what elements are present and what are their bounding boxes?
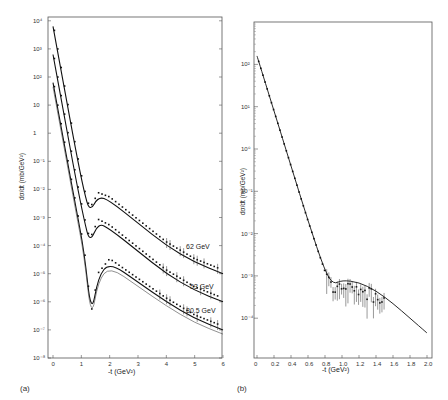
svg-text:1.8: 1.8 [407,361,416,367]
panel-b-axes: 00.20.40.60.81.01.21.41.61.82.010²10¹10⁰… [241,24,433,367]
label-53gev: 53 GeV [190,283,214,290]
panel-b-frame [254,22,432,358]
label-62gev: 62 GeV [186,243,210,250]
svg-text:5: 5 [193,361,197,367]
svg-text:10⁰: 10⁰ [241,146,251,152]
panel-b-curves [257,56,427,333]
svg-text:10⁻²: 10⁻² [241,231,253,237]
svg-text:10: 10 [33,102,40,108]
svg-text:10³: 10³ [33,46,42,52]
panel-a-label: (a) [20,384,30,393]
svg-text:0: 0 [254,361,258,367]
svg-text:0: 0 [52,361,56,367]
svg-text:6: 6 [222,361,226,367]
svg-text:0.4: 0.4 [288,361,297,367]
svg-text:1.6: 1.6 [390,361,399,367]
svg-text:0.6: 0.6 [305,361,314,367]
svg-text:10⁻⁷: 10⁻⁷ [33,327,45,333]
svg-text:10⁻⁴: 10⁻⁴ [33,243,46,249]
svg-text:10⁻³: 10⁻³ [241,273,253,279]
svg-text:10⁻⁶: 10⁻⁶ [33,299,46,305]
svg-text:10²: 10² [33,74,42,80]
figure: 012345610⁴10³10²10110⁻¹10⁻²10⁻³10⁻⁴10⁻⁵1… [0,0,448,400]
svg-text:10⁴: 10⁴ [33,18,43,24]
svg-text:10⁻⁵: 10⁻⁵ [33,271,46,277]
label-30gev: 30.5 GeV [186,307,216,314]
svg-text:10⁻³: 10⁻³ [33,215,45,221]
svg-text:10⁻¹: 10⁻¹ [33,158,45,164]
svg-text:1.4: 1.4 [373,361,382,367]
svg-text:0.2: 0.2 [271,361,280,367]
svg-text:10⁻⁸: 10⁻⁸ [33,355,46,361]
svg-text:2.0: 2.0 [424,361,433,367]
svg-text:2: 2 [108,361,112,367]
svg-text:10²: 10² [241,61,250,67]
svg-text:3: 3 [137,361,141,367]
panel-b-label: (b) [237,384,247,393]
panel-b-xlabel: -t (GeV²) [322,366,349,374]
panel-a-xlabel: -t (GeV²) [108,368,135,376]
svg-text:1.2: 1.2 [356,361,365,367]
svg-text:10⁻²: 10⁻² [33,186,45,192]
panel-a-axes: 012345610⁴10³10²10110⁻¹10⁻²10⁻³10⁻⁴10⁻⁵1… [33,18,226,367]
svg-text:1: 1 [33,130,37,136]
panel-b-ylabel: dσ/dt (mb/GeV²) [239,168,247,215]
panel-a-ylabel: dσ/dt (mb/GeV²) [18,153,26,200]
svg-text:10⁻⁴: 10⁻⁴ [241,315,254,321]
svg-text:1: 1 [80,361,84,367]
svg-text:4: 4 [165,361,169,367]
svg-text:10¹: 10¹ [241,104,250,110]
